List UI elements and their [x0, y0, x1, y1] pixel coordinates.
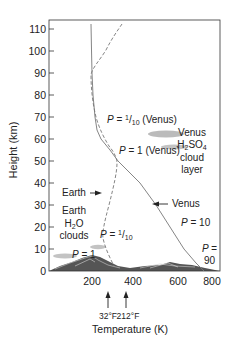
x-tick-label: 200: [83, 275, 101, 287]
y-tick-label: 10: [34, 243, 46, 255]
y-tick-label: 60: [34, 133, 46, 145]
x-tick-label: 600: [169, 275, 187, 287]
y-tick-label: 100: [28, 45, 46, 57]
earth-cloud-label-3: clouds: [60, 230, 89, 241]
y-tick-label: 20: [34, 221, 46, 233]
x-tick-label: 800: [203, 275, 221, 287]
earth-cloud-label-1: Earth: [62, 205, 86, 216]
y-tick-labels: 110 100 90 80 70 60 50 40 30 20 10 0: [28, 23, 46, 277]
boiling-point-label: 212°F: [117, 311, 140, 321]
temperature-profile-chart: 110 100 90 80 70 60 50 40 30 20 10 0 Hei…: [0, 0, 235, 339]
y-tick-label: 70: [34, 111, 46, 123]
venus-p90-label-a: P =: [202, 243, 217, 254]
earth-p1-label: P = 1: [72, 249, 96, 260]
earth-p-tenth-label: P = 1/10: [100, 229, 133, 241]
x-axis-label: Temperature (K): [92, 323, 168, 335]
y-tick-label: 90: [34, 67, 46, 79]
venus-cloud-label-2: H2SO4: [177, 139, 207, 151]
y-tick-label: 80: [34, 89, 46, 101]
earth-cloud-label-2: H2O: [65, 218, 84, 230]
venus-cloud-label-1: Venus: [178, 127, 206, 138]
x-tick-labels: 200 400 600 800: [83, 275, 221, 287]
x-tick-label: 400: [124, 275, 142, 287]
venus-arrow-label: Venus: [172, 198, 200, 209]
venus-cloud-label-3: cloud: [180, 152, 204, 163]
venus-p10-label: P = 10: [181, 217, 211, 228]
venus-p1-label: P = 1 (Venus): [119, 145, 180, 156]
earth-pointer-arrow: [90, 191, 102, 196]
reference-arrows: [106, 291, 129, 308]
y-axis-label: Height (km): [7, 122, 19, 179]
venus-p90-label-b: 90: [204, 255, 216, 266]
y-tick-label: 40: [34, 177, 46, 189]
freezing-point-label: 32°F: [99, 311, 117, 321]
y-tick-label: 30: [34, 199, 46, 211]
y-tick-label: 0: [40, 265, 46, 277]
venus-p-tenth-label: P = 1/10 (Venus): [107, 114, 177, 126]
y-tick-marks: [49, 29, 54, 249]
y-tick-label: 110: [29, 23, 46, 35]
venus-cloud-label-4: layer: [181, 164, 203, 175]
y-tick-label: 50: [34, 155, 46, 167]
earth-arrow-label: Earth: [62, 187, 86, 198]
